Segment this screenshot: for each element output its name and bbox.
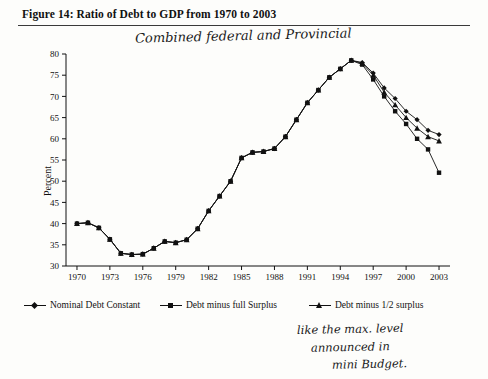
diamond-marker-icon (24, 302, 46, 309)
svg-text:80: 80 (50, 49, 60, 59)
debt-to-gdp-line-chart: 3035404550556065707580197019731976197919… (20, 46, 460, 296)
chart-area: Percent 30354045505560657075801970197319… (20, 46, 460, 296)
svg-text:30: 30 (50, 261, 60, 271)
handwritten-annotation-top: Combined federal and Provincial (135, 25, 352, 45)
legend-label: Debt minus full Surplus (186, 301, 277, 311)
svg-text:1982: 1982 (200, 272, 218, 282)
svg-text:2003: 2003 (430, 272, 449, 282)
figure-page: Figure 14: Ratio of Debt to GDP from 197… (0, 0, 488, 379)
legend-item-nominal-debt: Nominal Debt Constant (24, 301, 140, 311)
handwritten-annotation-line1: like the max. level (297, 321, 404, 337)
svg-text:1979: 1979 (167, 272, 186, 282)
caption-divider (18, 25, 470, 26)
legend-label: Nominal Debt Constant (50, 301, 140, 311)
svg-text:1970: 1970 (68, 272, 87, 282)
square-marker-icon (160, 302, 182, 309)
svg-text:45: 45 (50, 198, 60, 208)
svg-text:1973: 1973 (101, 272, 120, 282)
svg-text:35: 35 (50, 240, 60, 250)
figure-caption: Figure 14: Ratio of Debt to GDP from 197… (22, 8, 276, 20)
svg-text:40: 40 (50, 219, 60, 229)
svg-text:2000: 2000 (397, 272, 416, 282)
svg-text:70: 70 (50, 92, 60, 102)
svg-text:1985: 1985 (233, 272, 252, 282)
svg-text:55: 55 (50, 155, 60, 165)
handwritten-annotation-line2: announced in (311, 339, 390, 355)
legend-item-debt-minus-full-surplus: Debt minus full Surplus (160, 301, 277, 311)
handwritten-annotation-line3: mini Budget. (332, 356, 407, 372)
svg-text:75: 75 (50, 70, 60, 80)
chart-legend: Nominal Debt Constant Debt minus full Su… (24, 300, 454, 316)
svg-text:50: 50 (50, 176, 60, 186)
svg-text:65: 65 (50, 113, 60, 123)
svg-text:1994: 1994 (331, 272, 350, 282)
legend-label: Debt minus 1/2 surplus (335, 301, 423, 311)
svg-text:1997: 1997 (364, 272, 383, 282)
legend-item-debt-minus-half-surplus: Debt minus 1/2 surplus (309, 301, 423, 311)
svg-text:1976: 1976 (134, 272, 153, 282)
svg-text:60: 60 (50, 134, 60, 144)
svg-text:1991: 1991 (298, 272, 316, 282)
svg-text:1988: 1988 (265, 272, 284, 282)
triangle-marker-icon (309, 302, 331, 309)
